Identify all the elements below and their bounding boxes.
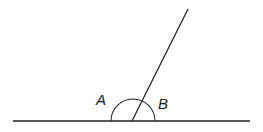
angle-a-label: A: [95, 91, 106, 108]
angle-b-label: B: [158, 95, 168, 112]
angle-diagram: A B: [0, 0, 263, 132]
diagram-canvas: A B: [0, 0, 263, 132]
